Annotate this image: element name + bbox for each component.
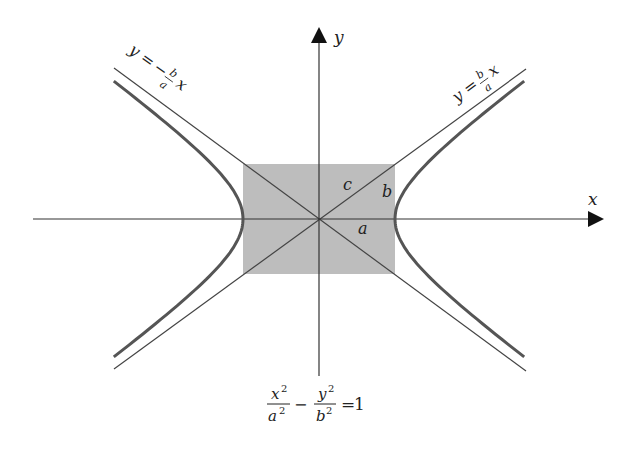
frac-den: a	[157, 78, 170, 92]
term1-den-exp: 2	[279, 405, 285, 416]
label-b: b	[382, 182, 392, 201]
term2-den: b	[316, 407, 326, 425]
label-a: a	[358, 219, 368, 238]
term2-num: y	[317, 385, 327, 403]
term1-num: x	[271, 385, 280, 403]
term1-num-exp: 2	[281, 383, 287, 394]
hyperbola-equation: x 2 a 2 − y 2 b 2 = 1	[267, 383, 365, 425]
rhs-value: 1	[354, 394, 365, 414]
y-axis-arrow-icon	[311, 27, 327, 43]
y-axis-label: y	[333, 27, 344, 47]
term2-num-exp: 2	[328, 383, 334, 394]
label-c: c	[343, 175, 352, 194]
frac-num: b	[473, 67, 486, 82]
minus-sign: −	[294, 395, 307, 414]
term2-den-exp: 2	[326, 405, 332, 416]
x-axis-arrow-icon	[588, 211, 604, 227]
term1-den: a	[268, 407, 277, 425]
hyperbola-diagram: y x c b a y = − b a x y = b a x x 2 a 2 …	[0, 0, 643, 452]
frac-den: a	[481, 80, 494, 94]
x-axis-label: x	[588, 189, 598, 209]
asymptote-negative-label: y = − b a x	[120, 38, 191, 101]
